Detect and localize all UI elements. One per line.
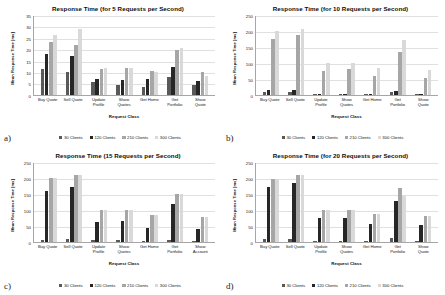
bar-120-clients: [171, 204, 175, 242]
bar-group: [283, 16, 308, 95]
bar-120-clients: [121, 221, 125, 242]
legend-label: 210 Clients: [350, 135, 371, 140]
x-tick-label: Show Quotes: [334, 97, 360, 108]
x-tick-label: Get Portfolio: [162, 97, 187, 108]
y-tick-label: 100: [24, 208, 31, 213]
bar-210-clients: [74, 45, 78, 95]
x-tick-label: Buy Quote: [257, 97, 283, 108]
bar-30-clients: [116, 85, 120, 95]
bar-group: [112, 16, 137, 95]
bar-group: [258, 163, 283, 242]
legend-item: 30 Clients: [59, 135, 82, 140]
bar-30-clients: [313, 94, 317, 95]
bar-30-clients: [142, 87, 146, 95]
bar-group: [137, 16, 162, 95]
legend-swatch-icon: [122, 136, 125, 139]
y-axis-ticks: 05101520253035: [17, 16, 32, 102]
y-axis-label-text: Mean Response Time [ms]: [10, 32, 15, 85]
legend-swatch-icon: [155, 284, 158, 287]
bar-group: [411, 16, 436, 95]
bar-30-clients: [167, 240, 171, 242]
y-axis-label: Mean Response Time [ms]: [8, 16, 17, 102]
bar-30-clients: [415, 241, 419, 242]
bar-300-clients: [205, 76, 209, 95]
bar-210-clients: [201, 217, 205, 242]
x-tick-label: Sell Quote: [283, 97, 309, 108]
x-tick-label: Get Home: [137, 244, 162, 255]
y-tick-label: 0: [251, 93, 253, 98]
bar-300-clients: [53, 178, 57, 242]
panel-tag: b): [226, 134, 234, 143]
bar-group: [309, 16, 334, 95]
legend-label: 120 Clients: [317, 283, 338, 288]
y-tick-label: 50: [26, 224, 31, 229]
bar-group: [137, 163, 162, 242]
bar-300-clients: [351, 210, 355, 242]
legend-label: 300 Clients: [160, 283, 181, 288]
bar-group: [162, 16, 187, 95]
bar-groups: [34, 16, 215, 95]
bar-30-clients: [339, 241, 343, 242]
chart-title: Response Time (for 10 Requests per Secon…: [222, 0, 445, 13]
bar-300-clients: [154, 72, 158, 95]
legend-item: 120 Clients: [90, 135, 116, 140]
bar-300-clients: [154, 215, 158, 242]
bar-120-clients: [343, 94, 347, 95]
bar-120-clients: [267, 90, 271, 94]
bar-120-clients: [343, 218, 347, 242]
bar-120-clients: [171, 67, 175, 95]
bar-group: [309, 163, 334, 242]
bar-30-clients: [192, 241, 196, 242]
bar-210-clients: [398, 188, 402, 241]
legend-swatch-icon: [312, 284, 315, 287]
bar-group: [112, 163, 137, 242]
legend-label: 210 Clients: [350, 283, 371, 288]
legend-swatch-icon: [90, 284, 93, 287]
legend-label: 30 Clients: [286, 283, 305, 288]
x-tick-label: Update Profile: [86, 97, 111, 108]
chart-title: Response Time (for 20 Requests per Secon…: [222, 147, 445, 160]
x-tick-label: Get Portfolio: [385, 97, 411, 108]
legend-item: 210 Clients: [122, 283, 148, 288]
bar-group: [188, 16, 213, 95]
bar-300-clients: [104, 210, 108, 242]
x-tick-label: Sell Quote: [283, 244, 309, 255]
panel-tag: d): [226, 282, 234, 291]
bar-group: [283, 163, 308, 242]
bar-group: [385, 163, 410, 242]
bar-120-clients: [318, 94, 322, 95]
legend-item: 120 Clients: [312, 135, 338, 140]
legend-item: 30 Clients: [282, 135, 305, 140]
bar-group: [334, 16, 359, 95]
bar-groups: [256, 16, 438, 95]
legend-item: 300 Clients: [378, 135, 404, 140]
bar-300-clients: [351, 63, 355, 95]
legend-item: 120 Clients: [312, 283, 338, 288]
bar-300-clients: [205, 217, 209, 242]
bar-300-clients: [326, 210, 330, 242]
bar-300-clients: [78, 29, 82, 95]
y-tick-label: 0: [29, 240, 31, 245]
bar-300-clients: [377, 214, 381, 242]
panel-tag: a): [4, 134, 11, 143]
legend-label: 210 Clients: [127, 135, 148, 140]
plot-box: [255, 163, 438, 243]
chart-legend: 30 Clients120 Clients210 Clients300 Clie…: [222, 135, 445, 140]
bar-30-clients: [288, 92, 292, 95]
y-tick-label: 250: [246, 13, 253, 18]
y-tick-label: 100: [246, 208, 253, 213]
bar-group: [36, 163, 61, 242]
bar-300-clients: [129, 210, 133, 242]
x-tick-label: Update Profile: [308, 97, 334, 108]
x-tick-label: Show Quotes: [111, 97, 136, 108]
bar-300-clients: [53, 35, 57, 95]
legend-label: 30 Clients: [64, 283, 83, 288]
legend-label: 120 Clients: [94, 135, 115, 140]
legend-swatch-icon: [90, 136, 93, 139]
bar-120-clients: [70, 187, 74, 242]
plot-box: [33, 16, 215, 96]
bar-300-clients: [129, 68, 133, 95]
bar-210-clients: [201, 72, 205, 95]
x-tick-label: Buy Quote: [35, 97, 60, 108]
bar-30-clients: [339, 94, 343, 95]
